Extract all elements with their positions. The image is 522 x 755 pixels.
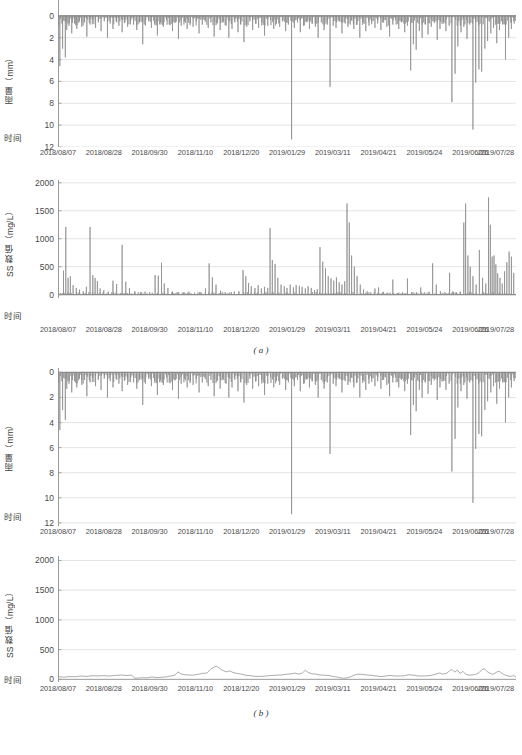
rainfall-a-svg — [58, 0, 516, 147]
ss-a-ytick: 1500 — [20, 206, 54, 216]
ss-a-ytick: 1000 — [20, 234, 54, 244]
ss-b-xtick: 2018/11/10 — [178, 684, 213, 693]
rainfall-a-xtick: 2019/05/24 — [406, 148, 442, 157]
ss-b-ytick: 1000 — [20, 615, 54, 625]
chart-ss-b: SS 数值（mg/L） 0500100015002000 时间 2018/08/… — [0, 556, 522, 721]
ss-b-xtick: 2018/12/20 — [223, 684, 259, 693]
rainfall-b-xtick: 2019/07/28 — [478, 527, 514, 536]
rainfall-a-xtick: 2018/09/30 — [132, 148, 168, 157]
ss-a-ytick: 0 — [20, 290, 54, 300]
rainfall-b-xtick: 2018/11/10 — [178, 527, 213, 536]
rainfall-a-xtick: 2019/04/21 — [361, 148, 397, 157]
rainfall-a-ytick: 8 — [20, 98, 54, 108]
ss-b-xtick: 2018/08/28 — [86, 684, 122, 693]
ss-b-xtick: 2019/01/29 — [269, 684, 305, 693]
rainfall-a-ytick: 6 — [20, 76, 54, 86]
rainfall-b-ytick: 10 — [20, 493, 54, 503]
ss-a-xtick: 2018/08/07 — [40, 325, 76, 334]
ss-b-ytick: 500 — [20, 645, 54, 655]
ss-a-xtick: 2018/09/30 — [132, 325, 168, 334]
rainfall-b-xtick: 2019/01/29 — [269, 527, 305, 536]
rainfall-a-ytick: 10 — [20, 120, 54, 130]
ss-a-xtick: 2019/03/11 — [315, 325, 350, 334]
rainfall-b-ytick: 2 — [20, 392, 54, 402]
rainfall-b-xtick: 2018/08/28 — [86, 527, 122, 536]
rainfall-b-ytick: 0 — [20, 367, 54, 377]
rainfall-b-time-label: 时间 — [4, 510, 22, 522]
rainfall-a-plot — [58, 0, 516, 147]
rainfall-a-ytick: 4 — [20, 55, 54, 65]
rainfall-a-time-label: 时间 — [4, 131, 22, 143]
chart-rainfall-b: 雨量（mm） 024681012 时间 2018/08/072018/08/28… — [0, 368, 522, 533]
ss-b-ytick: 2000 — [20, 555, 54, 565]
ss-a-xtick: 2019/04/21 — [361, 325, 397, 334]
ss-b-xtick: 2019/03/11 — [315, 684, 350, 693]
rainfall-b-ytick: 4 — [20, 418, 54, 428]
ss-a-xtick: 2018/12/20 — [223, 325, 259, 334]
ss-b-yticks: 0500100015002000 — [16, 556, 54, 682]
rainfall-a-ytick: 0 — [20, 11, 54, 21]
ss-b-xticks: 2018/08/072018/08/282018/09/302018/11/10… — [0, 684, 522, 696]
ss-b-ytick: 0 — [20, 674, 54, 684]
ss-a-xtick: 2018/08/28 — [86, 325, 122, 334]
rainfall-b-xtick: 2018/12/20 — [223, 527, 259, 536]
rainfall-b-xtick: 2019/05/24 — [406, 527, 442, 536]
rainfall-a-xtick: 2018/08/28 — [86, 148, 122, 157]
rainfall-a-xtick: 2018/11/10 — [178, 148, 213, 157]
rainfall-b-svg — [58, 368, 516, 526]
ss-b-xtick: 2018/08/07 — [40, 684, 76, 693]
figure-root: 雨量（mm） 024681012 时间 2018/08/072018/08/28… — [0, 0, 522, 755]
rainfall-a-yticks: 024681012 — [16, 0, 54, 147]
rainfall-a-xtick: 2018/08/07 — [40, 148, 76, 157]
panel-a-caption: ( a ) — [0, 345, 522, 355]
ss-a-xtick: 2019/05/24 — [406, 325, 442, 334]
rainfall-a-xtick: 2018/12/20 — [223, 148, 259, 157]
rainfall-b-plot — [58, 368, 516, 526]
ss-b-xtick: 2019/05/24 — [406, 684, 442, 693]
ss-b-xtick: 2018/09/30 — [132, 684, 168, 693]
ss-a-svg — [58, 180, 516, 298]
chart-rainfall-a: 雨量（mm） 024681012 时间 2018/08/072018/08/28… — [0, 0, 522, 155]
rainfall-a-xtick: 2019/07/28 — [478, 148, 514, 157]
rainfall-b-xtick: 2018/09/30 — [132, 527, 168, 536]
ss-b-axis-label: SS 数值（mg/L） — [4, 564, 16, 682]
ss-b-plot — [58, 556, 516, 682]
rainfall-b-axis-label: 雨量（mm） — [4, 390, 16, 500]
ss-a-xtick: 2019/01/29 — [269, 325, 305, 334]
rainfall-b-ytick: 6 — [20, 443, 54, 453]
panel-b: 雨量（mm） 024681012 时间 2018/08/072018/08/28… — [0, 368, 522, 755]
ss-a-xticks: 2018/08/072018/08/282018/09/302018/11/10… — [0, 325, 522, 337]
rainfall-b-xtick: 2018/08/07 — [40, 527, 76, 536]
rainfall-b-yticks: 024681012 — [16, 368, 54, 526]
ss-a-ytick: 500 — [20, 262, 54, 272]
ss-a-yticks: 0500100015002000 — [16, 180, 54, 298]
ss-b-svg — [58, 556, 516, 682]
ss-a-plot — [58, 180, 516, 298]
ss-b-xtick: 2019/07/28 — [478, 684, 514, 693]
rainfall-a-xtick: 2019/03/11 — [315, 148, 350, 157]
rainfall-a-ytick: 2 — [20, 33, 54, 43]
rainfall-a-xtick: 2019/01/29 — [269, 148, 305, 157]
rainfall-b-xticks: 2018/08/072018/08/282018/09/302018/11/10… — [0, 527, 522, 539]
ss-a-ytick: 2000 — [20, 178, 54, 188]
rainfall-a-axis-label: 雨量（mm） — [4, 28, 16, 128]
ss-a-time-label: 时间 — [4, 309, 22, 321]
ss-b-xtick: 2019/04/21 — [361, 684, 397, 693]
panel-b-caption: ( b ) — [0, 708, 522, 718]
rainfall-a-xticks: 2018/08/072018/08/282018/09/302018/11/10… — [0, 148, 522, 160]
rainfall-b-xtick: 2019/03/11 — [315, 527, 350, 536]
ss-b-ytick: 1500 — [20, 585, 54, 595]
ss-a-xtick: 2018/11/10 — [178, 325, 213, 334]
rainfall-b-xtick: 2019/04/21 — [361, 527, 397, 536]
ss-a-xtick: 2019/07/28 — [478, 325, 514, 334]
rainfall-b-ytick: 8 — [20, 468, 54, 478]
chart-ss-a: SS 数值（mg/L） 0500100015002000 时间 2018/08/… — [0, 180, 522, 340]
ss-a-axis-label: SS 数值（mg/L） — [4, 186, 16, 298]
panel-a: 雨量（mm） 024681012 时间 2018/08/072018/08/28… — [0, 0, 522, 365]
